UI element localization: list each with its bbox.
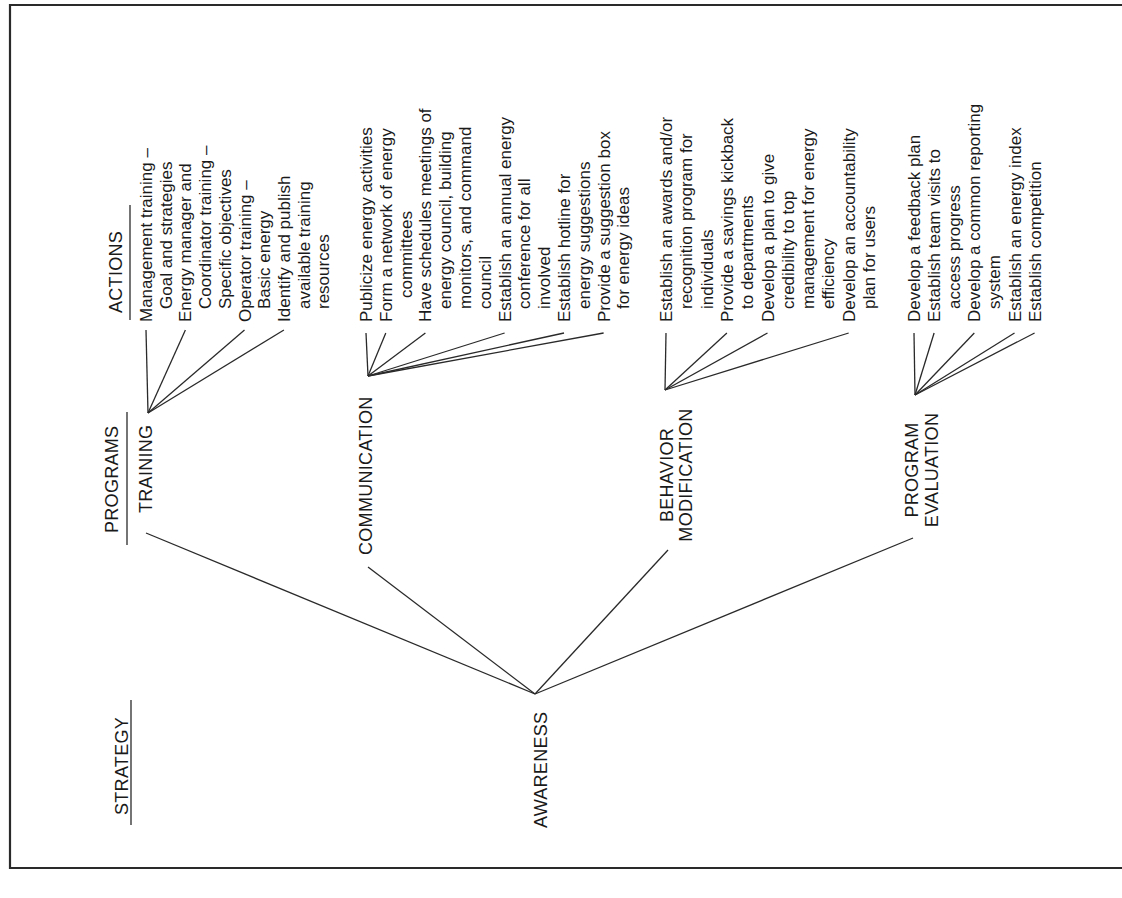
action-item: energy suggestions — [575, 162, 594, 309]
action-list-communication: Publicize energy activitiesForm a networ… — [357, 108, 633, 322]
action-connectors-training — [146, 330, 284, 413]
action-item: Coordinator training – — [196, 145, 215, 309]
action-item: Develop a plan to give — [759, 154, 778, 322]
action-list-behavior-modification: Establish an awards and/orrecognition pr… — [657, 117, 879, 322]
connector-awareness-behavior-modification — [535, 550, 668, 694]
action-item: Management training – — [137, 148, 156, 322]
action-item: resources — [314, 234, 333, 309]
action-item: Establish team visits to — [925, 149, 944, 322]
program-label-behavior-modification-line-2: MODIFICATION — [676, 408, 696, 541]
action-item: council — [476, 256, 495, 309]
action-connectors-behavior-modification — [665, 333, 849, 390]
action-item: Provide a savings kickback — [718, 117, 737, 322]
action-item: Establish competition — [1026, 161, 1045, 322]
action-connector — [914, 333, 915, 395]
action-item: Develop a feedback plan — [905, 135, 924, 322]
action-item: system — [985, 255, 1004, 309]
action-item: Establish an awards and/or — [657, 117, 676, 322]
action-connector — [366, 333, 368, 376]
program-label-behavior-modification-line-1: BEHAVIOR — [657, 428, 677, 522]
connector-awareness-program-evaluation — [535, 538, 913, 694]
action-item: individuals — [698, 230, 717, 309]
connector-awareness-training — [146, 533, 535, 694]
action-item: Establish hotline for — [555, 173, 574, 322]
action-item: plan for users — [860, 206, 879, 309]
action-item: Establish an annual energy — [496, 116, 515, 322]
action-item: for energy ideas — [614, 187, 633, 309]
action-item: recognition program for — [677, 133, 696, 309]
program-label-communication: COMMUNICATION — [356, 396, 376, 555]
action-item: Establish an energy index — [1006, 127, 1025, 322]
action-connector — [148, 330, 245, 413]
strategy-connectors — [146, 533, 913, 694]
action-item: credibility to top — [779, 191, 798, 309]
action-item: Identify and publish — [275, 176, 294, 323]
action-connector — [665, 333, 849, 390]
action-item: energy council, building — [436, 131, 455, 309]
action-connector — [148, 330, 284, 413]
action-item: Goal and strategies — [157, 162, 176, 309]
action-item: Form a network of energy — [377, 128, 396, 322]
action-list-training: Management training –Goal and strategies… — [137, 145, 333, 322]
program-behavior-modification: BEHAVIORMODIFICATIONEstablish an awards … — [657, 117, 879, 542]
action-item: Publicize energy activities — [357, 127, 376, 322]
header-programs: PROGRAMS — [102, 426, 122, 533]
action-item: management for energy — [799, 128, 818, 309]
header-actions: ACTIONS — [106, 231, 126, 313]
strategy-tree-diagram: STRATEGY PROGRAMS ACTIONS AWARENESS TRAI… — [0, 0, 1122, 898]
action-item: efficiency — [819, 238, 838, 309]
column-headers: STRATEGY PROGRAMS ACTIONS — [102, 205, 132, 825]
action-item: monitors, and command — [456, 127, 475, 309]
action-connector — [665, 333, 768, 390]
page-frame — [9, 4, 1122, 869]
program-program-evaluation: PROGRAMEVALUATIONDevelop a feedback plan… — [902, 104, 1045, 527]
action-item: available training — [295, 181, 314, 309]
action-connector — [148, 330, 185, 413]
action-item: Provide a suggestion box — [595, 131, 614, 322]
strategy-node-awareness: AWARENESS — [531, 712, 551, 828]
program-training: TRAININGManagement training –Goal and st… — [136, 145, 333, 513]
action-item: Develop a common reporting — [965, 104, 984, 322]
action-item: Specific objectives — [216, 169, 235, 309]
action-item: conference for all — [515, 179, 534, 309]
connector-awareness-communication — [368, 567, 535, 694]
action-connector — [665, 333, 727, 390]
program-label-program-evaluation-line-1: PROGRAM — [902, 422, 922, 517]
programs-layer: TRAININGManagement training –Goal and st… — [136, 104, 1045, 555]
action-item: committees — [397, 211, 416, 298]
action-item: to departments — [738, 196, 757, 309]
action-list-program-evaluation: Develop a feedback planEstablish team vi… — [905, 104, 1045, 322]
program-label-training: TRAINING — [136, 425, 156, 513]
program-label-program-evaluation-line-2: EVALUATION — [922, 413, 942, 527]
header-strategy: STRATEGY — [112, 717, 132, 815]
action-connectors-communication — [366, 333, 604, 376]
action-item: Develop an accountability — [840, 128, 859, 322]
program-communication: COMMUNICATIONPublicize energy activities… — [356, 108, 633, 555]
action-connectors-program-evaluation — [914, 333, 1035, 395]
action-connector — [915, 333, 1035, 395]
action-item: Operator training – — [236, 180, 255, 322]
action-item: Have schedules meetings of — [416, 108, 435, 322]
action-item: Energy manager and — [176, 163, 195, 322]
action-item: Basic energy — [255, 210, 274, 309]
action-item: involved — [535, 247, 554, 309]
action-connector — [146, 330, 148, 413]
action-connector — [665, 333, 666, 390]
action-item: access progress — [945, 185, 964, 309]
